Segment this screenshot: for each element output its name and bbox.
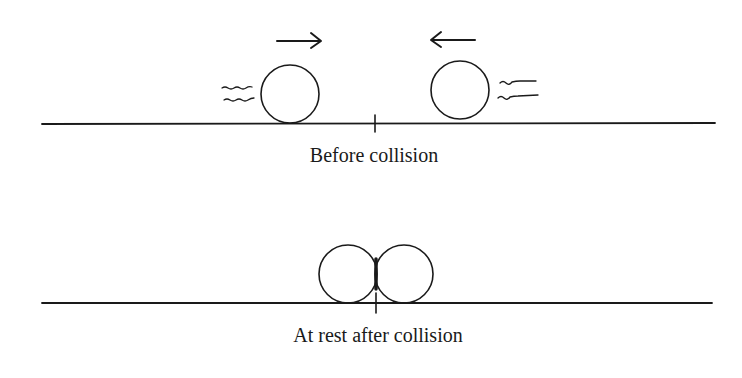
ball-left-at-rest: [319, 245, 377, 303]
before-collision-panel: [42, 32, 715, 132]
right-arrow-icon: [277, 33, 321, 48]
after-collision-panel: [42, 245, 712, 313]
before-collision-caption: Before collision: [310, 144, 438, 167]
ball-right: [431, 61, 489, 119]
left-arrow-icon: [431, 32, 475, 47]
right-ball-motion-lines-icon: [498, 81, 538, 99]
after-collision-caption: At rest after collision: [293, 324, 462, 347]
ground-line-top: [42, 123, 715, 124]
ball-right-at-rest: [375, 245, 433, 303]
left-ball-motion-lines-icon: [222, 87, 254, 101]
collision-diagram: [0, 0, 742, 378]
ball-left: [261, 65, 319, 123]
